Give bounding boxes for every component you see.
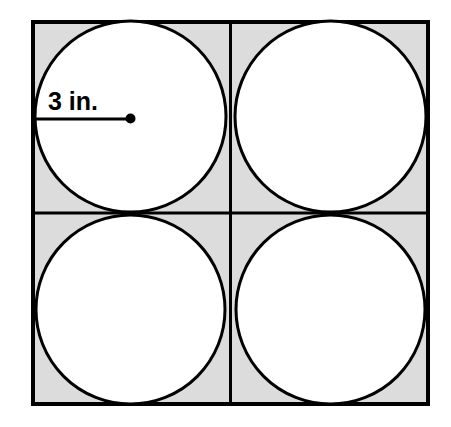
radius-label: 3 in.	[48, 87, 98, 115]
circle-center-dot	[126, 114, 136, 124]
circle-bottom-left	[36, 215, 225, 404]
geometry-figure: 3 in.	[0, 0, 451, 427]
figure-canvas: 3 in.	[0, 0, 451, 427]
circle-top-right	[235, 21, 426, 212]
circle-bottom-right	[236, 215, 425, 404]
